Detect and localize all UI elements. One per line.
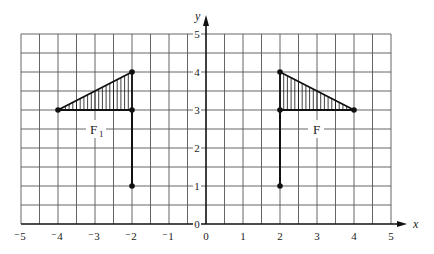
shape-label: F <box>90 122 97 137</box>
vertex-point <box>55 107 61 113</box>
x-tick-label: 4 <box>351 230 357 242</box>
x-axis-arrow-icon <box>397 221 407 227</box>
y-tick-label: 3 <box>194 104 200 116</box>
vertex-point <box>351 107 357 113</box>
x-tick-label: ⁻2 <box>125 230 137 242</box>
vertex-point <box>277 69 283 75</box>
vertex-point <box>129 69 135 75</box>
x-axis-name: x <box>412 217 419 231</box>
y-tick-label: 5 <box>194 28 200 40</box>
vertex-point <box>129 107 135 113</box>
x-tick-label: 3 <box>314 230 320 242</box>
shape-label: F <box>313 122 320 137</box>
x-tick-label: ⁻3 <box>88 230 100 242</box>
shape-label-subscript: 1 <box>99 129 104 139</box>
y-tick-label: 2 <box>194 142 200 154</box>
x-tick-label: 0 <box>203 230 209 242</box>
y-axis-arrow-icon <box>203 15 209 26</box>
vertex-point <box>277 183 283 189</box>
vertex-point <box>277 107 283 113</box>
x-tick-label: 2 <box>277 230 283 242</box>
y-tick-label: 0 <box>194 218 200 230</box>
axes <box>21 15 407 227</box>
x-tick-label: ⁻5 <box>14 230 26 242</box>
labels: xy⁻5⁻4⁻3⁻2⁻1012345012345F1F <box>14 9 419 242</box>
y-tick-label: 4 <box>194 66 200 78</box>
y-axis-name: y <box>194 9 201 23</box>
x-tick-label: 5 <box>388 230 394 242</box>
x-tick-label: 1 <box>240 230 246 242</box>
y-tick-label: 1 <box>194 180 200 192</box>
coordinate-diagram: xy⁻5⁻4⁻3⁻2⁻1012345012345F1F <box>0 0 434 254</box>
x-tick-label: ⁻1 <box>162 230 174 242</box>
vertex-point <box>129 183 135 189</box>
x-tick-label: ⁻4 <box>51 230 63 242</box>
